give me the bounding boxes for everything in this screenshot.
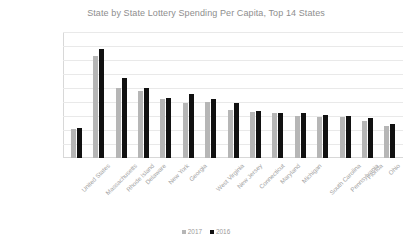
bar-2016 (368, 118, 373, 158)
bar-2017 (71, 129, 76, 158)
bar-2017 (138, 91, 143, 158)
bar-group (334, 32, 356, 158)
bar-2016 (166, 98, 171, 158)
bar-2017 (272, 113, 277, 158)
chart-title: State by State Lottery Spending Per Capi… (0, 8, 412, 18)
bar-2017 (183, 103, 188, 158)
legend-swatch-2016 (210, 230, 214, 234)
x-label-cell: United States (65, 160, 87, 212)
x-label-cell: Michigan (289, 160, 311, 212)
bar-2016 (301, 113, 306, 158)
x-axis-category-labels: United StatesMassachusettsRhode IslandDe… (63, 160, 403, 212)
bar-2016 (390, 124, 395, 158)
bar-group (289, 32, 311, 158)
legend-item-2016: 2016 (210, 228, 230, 235)
bar-2017 (295, 116, 300, 158)
bar-group (379, 32, 401, 158)
bar-group (222, 32, 244, 158)
bar-2016 (144, 88, 149, 158)
x-label-cell: Delaware (132, 160, 154, 212)
x-label-cell: Ohio (379, 160, 401, 212)
bar-2016 (278, 113, 283, 159)
bar-2017 (250, 112, 255, 158)
bar-groups (63, 32, 403, 158)
bar-group (199, 32, 221, 158)
bar-group (177, 32, 199, 158)
x-label-cell: Rhode Island (110, 160, 132, 212)
bar-2016 (99, 49, 104, 158)
bar-2017 (160, 99, 165, 159)
bar-2017 (116, 88, 121, 158)
bar-group (87, 32, 109, 158)
bar-2016 (256, 111, 261, 158)
x-label-cell: New Jersey (222, 160, 244, 212)
bar-2016 (323, 115, 328, 158)
x-label-cell: Pennsylvania (334, 160, 356, 212)
x-label-cell: Connecticut (244, 160, 266, 212)
bar-2017 (317, 117, 322, 158)
chart-legend: 2017 2016 (0, 228, 412, 235)
bar-2017 (205, 102, 210, 158)
x-label-cell: Georgia (177, 160, 199, 212)
x-axis-label: Ohio (387, 162, 401, 176)
bar-2016 (77, 128, 82, 158)
bar-2016 (234, 103, 239, 158)
plot-area (63, 32, 403, 158)
bar-2017 (384, 126, 389, 158)
bar-2017 (228, 110, 233, 158)
lottery-spending-bar-chart: State by State Lottery Spending Per Capi… (0, 0, 412, 243)
legend-label-2016: 2016 (216, 228, 230, 235)
bar-group (132, 32, 154, 158)
bar-2016 (189, 94, 194, 158)
legend-swatch-2017 (182, 230, 186, 234)
bar-2017 (362, 121, 367, 158)
bar-group (311, 32, 333, 158)
bar-group (110, 32, 132, 158)
bar-group (65, 32, 87, 158)
legend-item-2017: 2017 (182, 228, 202, 235)
bar-group (155, 32, 177, 158)
x-label-cell: New York (155, 160, 177, 212)
x-label-cell: West Virginia (199, 160, 221, 212)
bar-2016 (122, 78, 127, 158)
x-label-cell: Maryland (267, 160, 289, 212)
x-label-cell: Florida (356, 160, 378, 212)
bar-group (244, 32, 266, 158)
legend-label-2017: 2017 (188, 228, 202, 235)
bar-2016 (346, 116, 351, 158)
bar-2017 (340, 117, 345, 158)
bar-2017 (93, 56, 98, 158)
x-label-cell: Massachusetts (87, 160, 109, 212)
bar-group (356, 32, 378, 158)
x-label-cell: South Carolina (311, 160, 333, 212)
bar-group (267, 32, 289, 158)
bar-2016 (211, 99, 216, 158)
